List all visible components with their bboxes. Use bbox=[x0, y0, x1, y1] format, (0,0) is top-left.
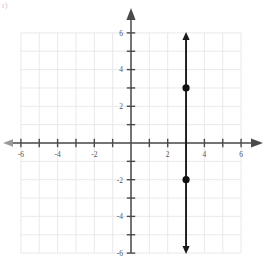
x-axis-tick-label: -4 bbox=[54, 150, 60, 159]
y-axis-tick-label: -2 bbox=[117, 176, 123, 185]
coordinate-plane-figure: r) -6-4-2246642-2-4-6 bbox=[0, 0, 264, 268]
plotted-point bbox=[182, 84, 189, 91]
x-axis-tick-label: 2 bbox=[166, 150, 170, 159]
x-axis-tick-label: 6 bbox=[239, 150, 243, 159]
x-axis-tick-label: -6 bbox=[18, 150, 24, 159]
y-axis-tick-label: 6 bbox=[119, 29, 123, 38]
x-axis-tick-label: 4 bbox=[203, 150, 207, 159]
x-axis-left-arrowhead bbox=[3, 139, 13, 147]
y-axis-top-arrowhead bbox=[126, 8, 135, 20]
y-axis-tick-label: 4 bbox=[119, 65, 123, 74]
plotted-point bbox=[182, 176, 189, 183]
x-axis-tick-label: -2 bbox=[91, 150, 97, 159]
y-axis-tick-label: 2 bbox=[119, 102, 123, 111]
x-axis-right-arrowhead bbox=[251, 138, 263, 147]
y-axis-tick-label: -4 bbox=[117, 212, 123, 221]
corner-artifact-mark: r) bbox=[2, 1, 7, 10]
y-axis-tick-label: -6 bbox=[117, 249, 123, 258]
coordinate-plane-svg: -6-4-2246642-2-4-6 bbox=[0, 0, 264, 268]
